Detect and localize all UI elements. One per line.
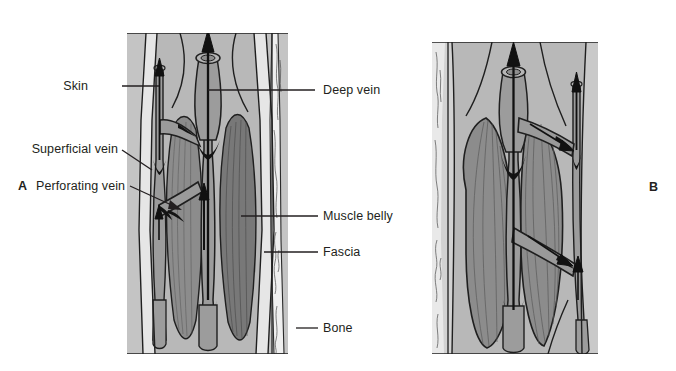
panel-letter-b: B <box>649 180 658 194</box>
panel-letter-a: A <box>18 179 27 193</box>
figure-canvas: Skin Superficial vein A Perforating vein… <box>0 0 676 371</box>
deep-vein-distal <box>199 305 217 351</box>
panel-b-body <box>432 42 598 355</box>
label-skin: Skin <box>63 79 88 93</box>
label-perforating-vein: Perforating vein <box>36 179 125 193</box>
muscle-belly-right <box>220 115 256 341</box>
label-deep-vein: Deep vein <box>323 83 380 97</box>
panel-b-deep-vein-distal <box>503 306 524 353</box>
label-superficial-vein: Superficial vein <box>32 142 118 156</box>
label-fascia: Fascia <box>323 245 360 259</box>
label-muscle-belly: Muscle belly <box>323 209 393 223</box>
label-bone: Bone <box>323 321 353 335</box>
panel-a-body <box>127 30 288 354</box>
